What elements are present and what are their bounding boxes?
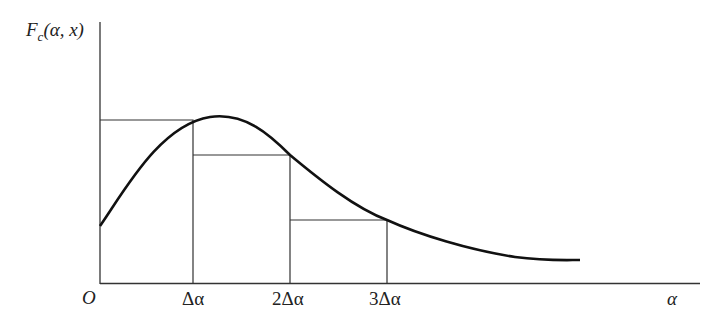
tick-label-1: Δα — [182, 288, 204, 310]
tick-label-2: 2Δα — [272, 288, 304, 310]
tick-label-3: 3Δα — [369, 288, 401, 310]
x-axis-label: α — [667, 288, 677, 310]
rectangles — [100, 120, 387, 284]
diagram-canvas — [0, 0, 708, 327]
density-curve — [100, 116, 580, 260]
origin-label: O — [82, 287, 96, 309]
y-axis-label: Fc(α, x) — [26, 19, 84, 41]
